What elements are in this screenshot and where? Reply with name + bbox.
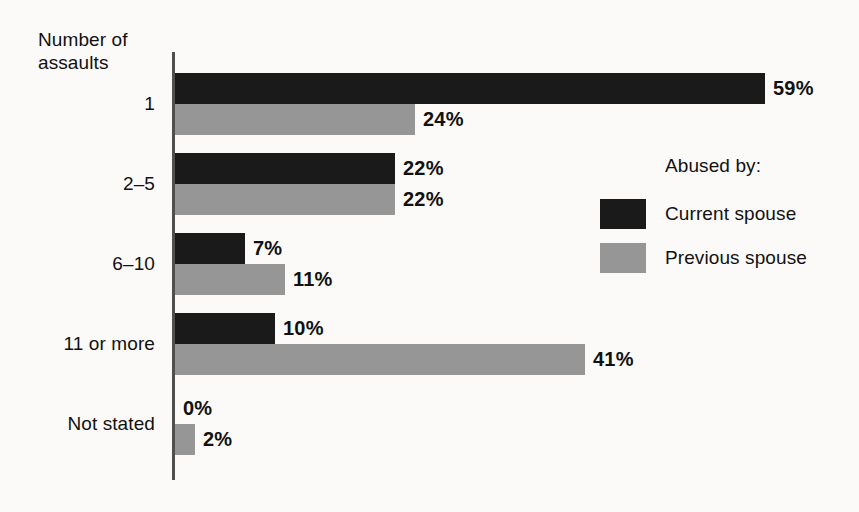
bar-previous-spouse (175, 344, 585, 375)
legend: Abused by: Current spouse Previous spous… (600, 155, 859, 280)
category-label: 2–5 (123, 173, 155, 195)
bar-previous-spouse (175, 104, 415, 135)
legend-label-current-spouse: Current spouse (665, 199, 796, 229)
bar-value-label: 2% (203, 424, 232, 455)
bar-current-spouse (175, 73, 765, 104)
bar-previous-spouse (175, 424, 195, 455)
legend-swatch-current-spouse (600, 199, 646, 229)
bar-value-label: 59% (773, 73, 814, 104)
category-label: 6–10 (112, 253, 155, 275)
bar-previous-spouse (175, 184, 395, 215)
bar-current-spouse (175, 233, 245, 264)
bar-value-label: 11% (293, 264, 333, 295)
legend-title: Abused by: (665, 155, 761, 177)
axis-title: Number of assaults (38, 28, 128, 74)
category-label: Not stated (67, 413, 155, 435)
legend-swatch-previous-spouse (600, 243, 646, 273)
bar-value-label: 22% (403, 153, 444, 184)
legend-label-previous-spouse: Previous spouse (665, 243, 807, 273)
category-label: 1 (144, 93, 155, 115)
bar-value-label: 41% (593, 344, 634, 375)
bar-value-label: 22% (403, 184, 444, 215)
category-label: 11 or more (64, 333, 155, 355)
bar-chart: Number of assaults 59%24%22%22%7%11%10%4… (0, 0, 859, 512)
bar-value-label: 24% (423, 104, 464, 135)
bar-previous-spouse (175, 264, 285, 295)
bar-current-spouse (175, 153, 395, 184)
bar-value-label: 7% (253, 233, 282, 264)
bar-value-label: 10% (283, 313, 324, 344)
bar-current-spouse (175, 313, 275, 344)
bar-value-label: 0% (183, 393, 212, 424)
